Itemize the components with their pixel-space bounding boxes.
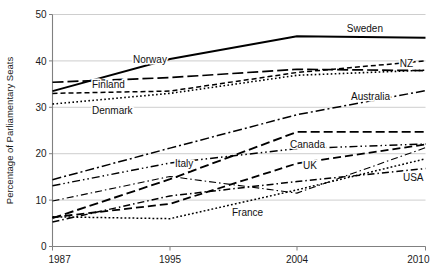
series-label-canada: Canada [290,139,325,150]
x-tick-label-1995: 1995 [159,254,182,265]
y-tick-label-10: 10 [35,195,47,206]
series-label-usa: USA [403,172,424,183]
line-chart-figure: 01020304050 1987199520042010 SwedenSwede… [0,0,439,279]
y-tick-label-20: 20 [35,148,47,159]
series-label-france: France [232,207,264,218]
series-label-norway: Norway [133,54,167,65]
series-label-sweden: Sweden [347,23,383,34]
chart-canvas: 01020304050 1987199520042010 SwedenSwede… [0,0,439,279]
series-label-uk: UK [303,160,317,171]
series-line-nz [53,91,426,180]
x-tick-label-2010: 2010 [407,254,430,265]
series-label-nz: NZ [400,58,413,69]
series-label-australia: Australia [351,91,390,102]
y-axis-title-group: Percentage of Parliamentary Seats [4,57,15,205]
x-tick-labels-group: 1987199520042010 [49,247,430,265]
y-tick-label-0: 0 [41,241,47,252]
series-label-denmark: Denmark [92,105,134,116]
series-label-finland: Finland [92,79,125,90]
y-tick-label-30: 30 [35,102,47,113]
y-tick-labels-group: 01020304050 [35,9,52,252]
y-tick-label-50: 50 [35,9,47,20]
y-axis-title: Percentage of Parliamentary Seats [4,57,15,205]
series-label-italy: Italy [175,158,193,169]
series-lines-group [53,36,426,222]
x-tick-label-1987: 1987 [49,254,72,265]
x-tick-label-2004: 2004 [286,254,309,265]
y-tick-label-40: 40 [35,56,47,67]
